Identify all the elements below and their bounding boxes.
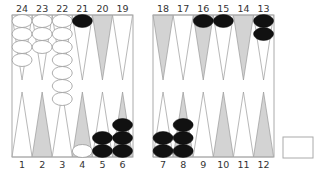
point-10[interactable] [213, 92, 233, 157]
white-checker[interactable] [52, 93, 72, 106]
black-checker[interactable] [72, 15, 92, 28]
black-checker[interactable] [153, 132, 173, 145]
side-box[interactable] [283, 137, 313, 158]
point-label-19: 19 [117, 3, 129, 14]
black-checker[interactable] [254, 15, 274, 28]
point-label-11: 11 [237, 159, 249, 170]
point-label-5: 5 [99, 159, 105, 170]
point-label-14: 14 [237, 3, 249, 14]
point-label-2: 2 [39, 159, 45, 170]
white-checker[interactable] [52, 54, 72, 67]
backgammon-board: 242322212019181716151413 123456789101112 [0, 0, 314, 176]
point-17[interactable] [173, 15, 193, 80]
point-label-17: 17 [177, 3, 189, 14]
point-label-1: 1 [19, 159, 25, 170]
point-2[interactable] [32, 92, 52, 157]
black-checker[interactable] [153, 145, 173, 158]
point-label-20: 20 [96, 3, 108, 14]
black-checker[interactable] [113, 119, 133, 132]
point-12[interactable] [254, 92, 274, 157]
point-label-23: 23 [36, 3, 48, 14]
black-checker[interactable] [113, 132, 133, 145]
white-checker[interactable] [32, 41, 52, 54]
point-label-18: 18 [157, 3, 169, 14]
point-label-12: 12 [258, 159, 270, 170]
point-label-6: 6 [120, 159, 126, 170]
black-checker[interactable] [173, 145, 193, 158]
point-18[interactable] [153, 15, 173, 80]
point-label-21: 21 [76, 3, 88, 14]
black-checker[interactable] [92, 145, 112, 158]
white-checker[interactable] [12, 41, 32, 54]
point-19[interactable] [113, 15, 133, 80]
black-checker[interactable] [254, 28, 274, 41]
white-checker[interactable] [32, 15, 52, 28]
point-20[interactable] [92, 15, 112, 80]
black-checker[interactable] [193, 15, 213, 28]
checkers-layer [12, 15, 274, 158]
black-checker[interactable] [113, 145, 133, 158]
top-point-labels: 242322212019181716151413 [16, 3, 270, 14]
white-checker[interactable] [52, 28, 72, 41]
point-label-22: 22 [56, 3, 68, 14]
black-checker[interactable] [173, 119, 193, 132]
point-label-16: 16 [197, 3, 209, 14]
white-checker[interactable] [52, 15, 72, 28]
white-checker[interactable] [52, 80, 72, 93]
point-14[interactable] [233, 15, 253, 80]
point-11[interactable] [233, 92, 253, 157]
point-label-13: 13 [258, 3, 270, 14]
black-checker[interactable] [213, 15, 233, 28]
point-label-9: 9 [200, 159, 206, 170]
white-checker[interactable] [72, 145, 92, 158]
point-1[interactable] [12, 92, 32, 157]
white-checker[interactable] [32, 28, 52, 41]
point-label-7: 7 [160, 159, 166, 170]
point-label-4: 4 [79, 159, 85, 170]
white-checker[interactable] [12, 15, 32, 28]
point-label-15: 15 [217, 3, 229, 14]
white-checker[interactable] [12, 28, 32, 41]
black-checker[interactable] [92, 132, 112, 145]
black-checker[interactable] [173, 132, 193, 145]
white-checker[interactable] [52, 67, 72, 80]
point-label-10: 10 [217, 159, 229, 170]
point-label-24: 24 [16, 3, 28, 14]
point-9[interactable] [193, 92, 213, 157]
white-checker[interactable] [52, 41, 72, 54]
point-label-3: 3 [59, 159, 65, 170]
white-checker[interactable] [12, 54, 32, 67]
point-label-8: 8 [180, 159, 186, 170]
bottom-point-labels: 123456789101112 [19, 159, 270, 170]
